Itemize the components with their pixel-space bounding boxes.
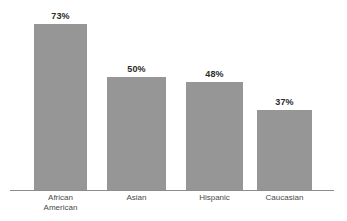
bar-group-caucasian[interactable]: 37% xyxy=(257,110,312,190)
x-axis-line xyxy=(10,190,334,191)
bar-value-label: 37% xyxy=(275,97,294,107)
x-axis-labels: African American Asian Hispanic Caucasia… xyxy=(0,193,347,221)
bar-group-asian[interactable]: 50% xyxy=(107,77,166,190)
bar-asian[interactable] xyxy=(107,77,166,190)
x-axis-label-asian: Asian xyxy=(95,193,179,203)
bar-hispanic[interactable] xyxy=(186,82,243,190)
bar-value-label: 50% xyxy=(127,64,146,74)
x-axis-label-caucasian: Caucasian xyxy=(243,193,327,203)
bar-value-label: 73% xyxy=(51,11,70,21)
bar-african-american[interactable] xyxy=(34,24,87,190)
bar-value-label: 48% xyxy=(205,69,224,79)
bar-chart: 73% 50% 48% 37% African American Asian H… xyxy=(0,0,347,221)
bar-group-african-american[interactable]: 73% xyxy=(34,24,87,190)
bar-caucasian[interactable] xyxy=(257,110,312,190)
x-axis-label-african-american: African American xyxy=(19,193,103,213)
plot-area: 73% 50% 48% 37% xyxy=(0,0,347,191)
bar-group-hispanic[interactable]: 48% xyxy=(186,82,243,190)
